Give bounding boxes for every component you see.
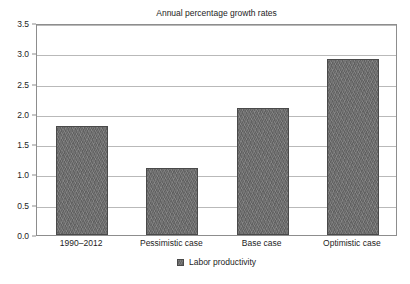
y-axis-tick-label: 1.0 [17,171,29,180]
x-axis-tick-label: Optimistic case [323,238,381,249]
bar [327,59,379,235]
plot-area [36,24,397,236]
y-axis-tick-label: 3.5 [17,20,29,29]
y-axis-tick-label: 0.0 [17,232,29,241]
y-axis-tick-label: 1.5 [17,141,29,150]
chart-title: Annual percentage growth rates [36,8,397,18]
x-axis: 1990–2012Pessimistic caseBase caseOptimi… [36,238,397,252]
y-axis-tick-label: 2.0 [17,110,29,119]
y-axis-tick-label: 3.0 [17,50,29,59]
x-axis-tick-label: Base case [242,238,282,249]
bar [146,168,198,235]
bar [56,126,108,235]
x-axis-tick-label: 1990–2012 [60,238,103,249]
x-axis-tick-label: Pessimistic case [140,238,203,249]
bar-chart-figure: Annual percentage growth rates 0.00.51.0… [0,0,410,284]
y-axis-tick-label: 2.5 [17,80,29,89]
chart-legend: Labor productivity [36,257,397,267]
bars-group [37,25,396,235]
y-axis: 0.00.51.01.52.02.53.03.5 [0,24,36,236]
y-axis-tick-label: 0.5 [17,201,29,210]
bar [237,108,289,235]
legend-label: Labor productivity [189,257,256,267]
legend-swatch-icon [177,259,184,266]
